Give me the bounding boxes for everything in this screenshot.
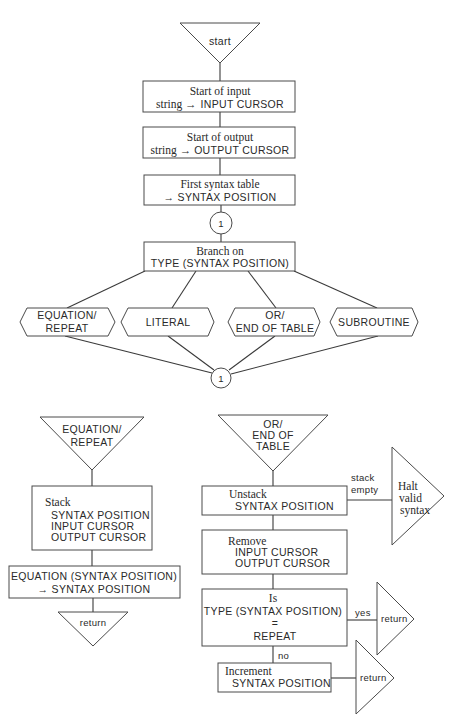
increment-item: SYNTAX POSITION: [232, 677, 331, 689]
equation-return-terminal: return: [58, 612, 128, 646]
no-label: no: [278, 650, 289, 661]
assign-line1: EQUATION (SYNTAX POSITION): [11, 570, 177, 582]
decision-line1: Is: [269, 592, 278, 604]
halt-terminal: Halt valid syntax: [392, 447, 444, 545]
decision-line2: TYPE (SYNTAX POSITION): [204, 605, 342, 617]
increment-return-label: return: [360, 672, 387, 683]
branch-line2: TYPE (SYNTAX POSITION): [151, 257, 289, 269]
case-or-line1: OR/: [265, 309, 285, 321]
decision-box: Is TYPE (SYNTAX POSITION) = REPEAT: [202, 589, 347, 646]
halt-line3: syntax: [400, 504, 430, 517]
stack-box: Stack SYNTAX POSITION INPUT CURSOR OUTPU…: [32, 486, 152, 550]
case-literal-label: LITERAL: [146, 316, 191, 328]
start-label: start: [209, 35, 231, 47]
process-box-syntax-position: First syntax table → SYNTAX POSITION: [144, 175, 295, 205]
branch-box: Branch on TYPE (SYNTAX POSITION): [144, 242, 295, 271]
step3-line2: → SYNTAX POSITION: [164, 191, 277, 203]
unstack-item: SYNTAX POSITION: [235, 500, 334, 512]
equation-assign-box: EQUATION (SYNTAX POSITION) → SYNTAX POSI…: [9, 566, 180, 598]
increment-return-terminal: return: [356, 640, 394, 714]
case-or-line2: END OF TABLE: [236, 322, 314, 334]
process-box-output-cursor: Start of output string →OUTPUT CURSOR: [143, 127, 295, 158]
remove-box: Remove INPUT CURSOR OUTPUT CURSOR: [202, 530, 347, 574]
or-end-entry: OR/ END OF TABLE: [218, 415, 328, 471]
step3-line1: First syntax table: [180, 178, 259, 191]
halt-line1: Halt: [398, 480, 419, 492]
yes-return-label: return: [381, 613, 408, 624]
case-subroutine: SUBROUTINE: [330, 308, 418, 336]
connector-bottom-label: 1: [218, 373, 224, 384]
decision-line4: REPEAT: [253, 630, 296, 642]
branch-line1: Branch on: [196, 245, 244, 257]
eq-entry-line1: EQUATION/: [62, 423, 122, 435]
remove-item: OUTPUT CURSOR: [235, 557, 330, 569]
connector-top-label: 1: [218, 218, 224, 229]
step1-line1: Start of input: [190, 85, 251, 98]
yes-return-terminal: return: [377, 582, 414, 655]
halt-line2: valid: [399, 492, 422, 504]
increment-title: Increment: [225, 665, 272, 677]
stack-title: Stack: [45, 496, 71, 508]
case-literal: LITERAL: [121, 308, 214, 336]
assign-line2: → SYNTAX POSITION: [38, 583, 151, 595]
case-equation-line1: EQUATION/: [37, 309, 97, 321]
decision-line3: =: [272, 617, 278, 629]
stack-empty-label: empty: [351, 484, 378, 495]
stack-item: OUTPUT CURSOR: [51, 531, 146, 543]
case-subroutine-label: SUBROUTINE: [338, 316, 410, 328]
increment-box: Increment SYNTAX POSITION: [218, 663, 331, 692]
process-box-input-cursor: Start of input string →INPUT CURSOR: [143, 81, 295, 112]
equation-repeat-entry: EQUATION/ REPEAT: [40, 417, 144, 470]
or-entry-line3: TABLE: [256, 440, 290, 452]
case-equation-repeat: EQUATION/ REPEAT: [20, 308, 115, 336]
unstack-title: Unstack: [229, 488, 267, 500]
case-or-end-of-table: OR/ END OF TABLE: [228, 308, 320, 336]
yes-label: yes: [355, 607, 371, 618]
case-equation-line2: REPEAT: [45, 322, 88, 334]
start-terminal: start: [180, 23, 260, 63]
eq-return-label: return: [80, 617, 107, 628]
flowchart-canvas: start Start of input string →INPUT CURSO…: [0, 0, 461, 722]
stack-empty-label: stack: [351, 472, 375, 483]
unstack-box: Unstack SYNTAX POSITION: [202, 486, 347, 515]
step1-line2: string →INPUT CURSOR: [156, 98, 284, 111]
step2-line1: Start of output: [187, 131, 254, 144]
connector-circle-top: 1: [210, 212, 232, 234]
connector-circle-bottom: 1: [211, 368, 231, 388]
eq-entry-line2: REPEAT: [70, 436, 113, 448]
step2-line2: string →OUTPUT CURSOR: [151, 144, 290, 157]
